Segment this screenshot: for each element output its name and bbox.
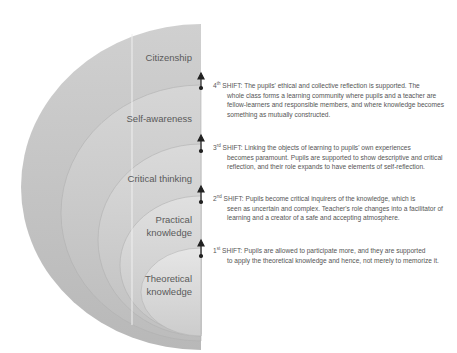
level-theoretical-line2: knowledge [147, 286, 192, 297]
level-practical-line2: knowledge [147, 227, 192, 238]
level-citizenship: Citizenship [82, 51, 192, 64]
level-theoretical-line1: Theoretical [145, 273, 192, 284]
shift-2-description: 2nd SHIFT: Pupils become critical inquir… [213, 192, 449, 223]
level-practical-line1: Practical [156, 214, 192, 225]
nested-semicircles [0, 0, 457, 353]
shift-3-description: 3rd SHIFT: Linking the objects of learni… [213, 141, 449, 172]
shift-1-description: 1st SHIFT: Pupils are allowed to partici… [213, 244, 449, 265]
level-self-awareness: Self-awareness [82, 112, 192, 125]
level-practical-knowledge: Practical knowledge [82, 213, 192, 239]
level-theoretical-knowledge: Theoretical knowledge [82, 272, 192, 298]
shift-4-description: 4th SHIFT: The pupils' ethical and colle… [213, 79, 449, 119]
learning-shifts-diagram: Citizenship Self-awareness Critical thin… [0, 0, 457, 353]
level-critical-thinking: Critical thinking [82, 172, 192, 185]
